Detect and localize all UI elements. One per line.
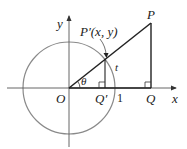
point-P-label: P [146, 7, 155, 22]
x-axis-label: x [171, 91, 178, 106]
point-Q-prime-label: Q′ [95, 91, 107, 106]
point-Q-label: Q [146, 91, 156, 106]
point-P-prime-label: P′(x, y) [79, 24, 117, 39]
arc-t-label: t [115, 61, 119, 73]
right-angle-marker-Qprime [99, 82, 105, 88]
unit-mark-label: 1 [117, 91, 123, 105]
pointer-arrow [100, 39, 106, 55]
y-axis-label: y [55, 16, 63, 31]
angle-arc [78, 81, 80, 88]
right-angle-marker-Q [145, 82, 151, 88]
unit-circle-diagram: y x O P P′(x, y) Q Q′ 1 θ t [0, 0, 187, 149]
origin-label: O [56, 91, 66, 106]
angle-theta-label: θ [81, 75, 87, 87]
